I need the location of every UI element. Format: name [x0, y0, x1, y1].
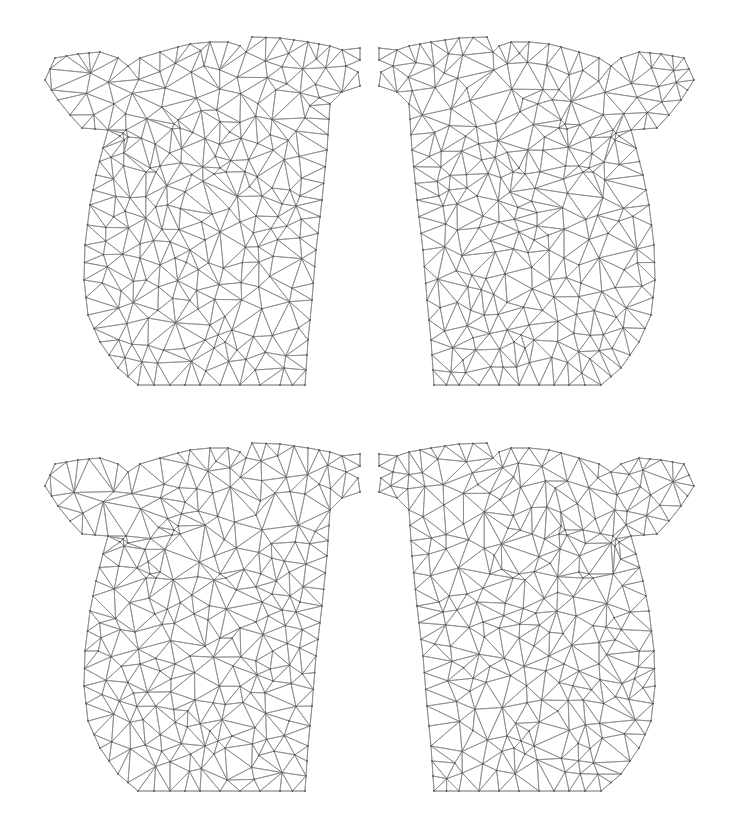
wireframe-mesh-top-right [369, 0, 739, 406]
wireframe-mesh-bottom-right [369, 406, 739, 812]
mesh-panel-top-right [369, 0, 739, 406]
mesh-edges [379, 443, 694, 791]
mesh-edges [45, 37, 360, 385]
wireframe-mesh-bottom-left [0, 406, 370, 812]
mesh-panel-bottom-left [0, 406, 370, 812]
mesh-outline [45, 37, 360, 385]
mesh-panel-bottom-right [369, 406, 739, 812]
wireframe-mesh-top-left [0, 0, 370, 406]
mesh-outline [45, 443, 360, 791]
mesh-panel-top-left [0, 0, 370, 406]
mesh-edges [379, 37, 694, 385]
mesh-edges [45, 443, 360, 791]
